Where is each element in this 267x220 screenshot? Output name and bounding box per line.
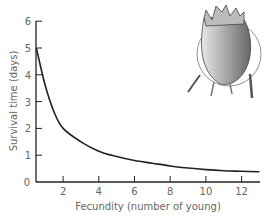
y-tick-label: 2 [25,123,31,134]
y-axis-title: Survival time (days) [8,51,19,152]
y-tick-label: 1 [25,150,31,161]
y-tick-label: 5 [25,43,31,54]
y-tick-label: 6 [25,16,31,27]
x-tick-label: 6 [131,186,137,197]
y-tick-label: 0 [24,177,30,188]
y-tick-label: 4 [25,70,31,81]
x-axis-ticks: 24681012 [60,176,248,197]
x-tick-label: 2 [60,186,66,197]
mite-illustration [188,5,261,98]
x-tick-label: 12 [235,186,248,197]
x-tick-label: 10 [200,186,213,197]
x-tick-label: 8 [167,186,173,197]
x-axis-title: Fecundity (number of young) [75,201,221,212]
survival-fecundity-chart: 0123456 24681012 Fecundity (number of yo… [0,0,267,220]
y-tick-label: 3 [25,97,31,108]
y-axis-ticks: 0123456 [24,16,42,188]
x-tick-label: 4 [96,186,102,197]
